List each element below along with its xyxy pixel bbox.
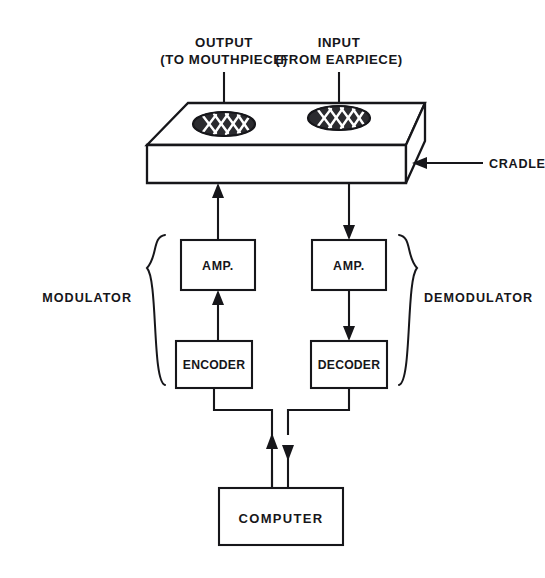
input-caption-line2: (FROM EARPIECE)	[275, 52, 403, 67]
amp-right-label: AMP.	[333, 259, 365, 273]
computer-to-encoder-arrow-icon	[266, 433, 278, 449]
amp-right-block: AMP.	[312, 240, 386, 290]
amp-left-block: AMP.	[181, 240, 255, 290]
computer-label: COMPUTER	[239, 511, 324, 526]
block-diagram-canvas: OUTPUT (TO MOUTHPIECE) INPUT (FROM EARPI…	[0, 0, 545, 578]
encoder-to-amp-connector	[212, 290, 224, 341]
cradle-body	[147, 103, 425, 183]
decoder-to-computer-route	[288, 388, 349, 435]
cradle-callout: CRADLE	[412, 157, 545, 171]
output-caption-line1: OUTPUT	[195, 35, 253, 50]
decoder-to-computer-connector	[282, 388, 349, 488]
amp-to-decoder-arrow-icon	[343, 326, 355, 341]
cradle-top-face	[147, 103, 425, 145]
input-grille	[308, 106, 370, 130]
encoder-block: ENCODER	[176, 341, 252, 388]
modulator-brace-icon	[147, 235, 165, 385]
amp-to-cradle-arrow-icon	[212, 183, 224, 198]
input-caption-line1: INPUT	[318, 35, 361, 50]
amp-to-decoder-connector	[343, 290, 355, 341]
demodulator-label: DEMODULATOR	[424, 291, 533, 305]
cradle-front-face	[147, 145, 406, 183]
decoder-label: DECODER	[318, 358, 380, 372]
modulator-label: MODULATOR	[42, 291, 132, 305]
input-caption: INPUT (FROM EARPIECE)	[275, 35, 403, 67]
output-caption-line2: (TO MOUTHPIECE)	[160, 52, 287, 67]
computer-block: COMPUTER	[219, 488, 343, 545]
amp-to-cradle-connector	[212, 183, 224, 240]
cradle-to-amp-arrow-icon	[343, 225, 355, 240]
output-caption: OUTPUT (TO MOUTHPIECE)	[160, 35, 287, 67]
amp-left-label: AMP.	[202, 259, 234, 273]
encoder-label: ENCODER	[183, 358, 245, 372]
encoder-to-amp-arrow-icon	[212, 290, 224, 305]
cradle-label: CRADLE	[489, 157, 545, 171]
cradle-to-amp-connector	[343, 183, 355, 240]
output-grille	[193, 112, 255, 136]
decoder-block: DECODER	[311, 341, 387, 388]
diagram-svg: OUTPUT (TO MOUTHPIECE) INPUT (FROM EARPI…	[0, 0, 545, 578]
computer-to-encoder-route	[214, 388, 272, 442]
computer-to-encoder-connector	[214, 388, 278, 488]
demodulator-brace-icon	[399, 235, 417, 385]
